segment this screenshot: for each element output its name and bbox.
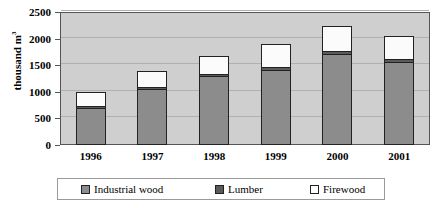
bar-segment-industrial-wood[interactable] — [76, 109, 106, 145]
bar-segment-firewood[interactable] — [137, 71, 167, 87]
bar-segment-firewood[interactable] — [322, 26, 352, 50]
x-axis-tick-label: 2000 — [327, 150, 349, 162]
bar-segment-industrial-wood[interactable] — [384, 63, 414, 145]
bar-group[interactable] — [245, 12, 307, 145]
stacked-bar[interactable] — [199, 56, 229, 145]
x-axis: 199619971998199920002001 — [60, 150, 430, 166]
y-axis-tick-label: 1500 — [29, 59, 51, 71]
legend-item-label: Firewood — [323, 183, 365, 195]
bar-group[interactable] — [183, 12, 245, 145]
x-axis-tick-label: 1997 — [142, 150, 164, 162]
bar-segment-industrial-wood[interactable] — [137, 90, 167, 145]
chart-legend: Industrial woodLumberFirewood — [57, 178, 385, 200]
y-axis-tick-label: 0 — [46, 139, 52, 151]
y-axis-tick-label: 2500 — [29, 6, 51, 18]
x-axis-tick-label: 1999 — [265, 150, 287, 162]
legend-item[interactable]: Industrial wood — [81, 182, 163, 196]
stacked-bar[interactable] — [76, 92, 106, 145]
y-axis-tick-label: 1000 — [29, 86, 51, 98]
x-axis-tick-label: 1996 — [80, 150, 102, 162]
bar-segment-firewood[interactable] — [384, 36, 414, 59]
stacked-bar[interactable] — [261, 44, 291, 145]
stacked-bar[interactable] — [137, 71, 167, 145]
industrial-wood-swatch — [81, 185, 90, 194]
bars-layer — [60, 12, 430, 145]
bar-segment-firewood[interactable] — [199, 56, 229, 74]
y-axis-tick-mark — [55, 145, 60, 146]
bar-segment-industrial-wood[interactable] — [322, 55, 352, 145]
x-axis-tick-label: 1998 — [203, 150, 225, 162]
bar-segment-industrial-wood[interactable] — [261, 71, 291, 145]
x-axis-tick-label: 2001 — [388, 150, 410, 162]
legend-item-label: Industrial wood — [94, 183, 163, 195]
gridline — [61, 10, 429, 11]
bar-segment-firewood[interactable] — [76, 92, 106, 106]
bar-group[interactable] — [307, 12, 369, 145]
bar-group[interactable] — [122, 12, 184, 145]
legend-item-label: Lumber — [228, 183, 263, 195]
bar-segment-firewood[interactable] — [261, 44, 291, 67]
legend-item[interactable]: Firewood — [310, 182, 365, 196]
bar-segment-industrial-wood[interactable] — [199, 77, 229, 145]
stacked-bar[interactable] — [322, 26, 352, 145]
bar-group[interactable] — [60, 12, 122, 145]
stacked-bar-chart: thousand m3 05001000150020002500 1996199… — [0, 0, 440, 208]
y-axis: 05001000150020002500 — [0, 0, 60, 158]
y-axis-tick-label: 2000 — [29, 33, 51, 45]
lumber-swatch — [215, 185, 224, 194]
y-axis-tick-label: 500 — [35, 112, 52, 124]
stacked-bar[interactable] — [384, 36, 414, 145]
firewood-swatch — [310, 185, 319, 194]
bar-group[interactable] — [368, 12, 430, 145]
legend-item[interactable]: Lumber — [215, 182, 263, 196]
